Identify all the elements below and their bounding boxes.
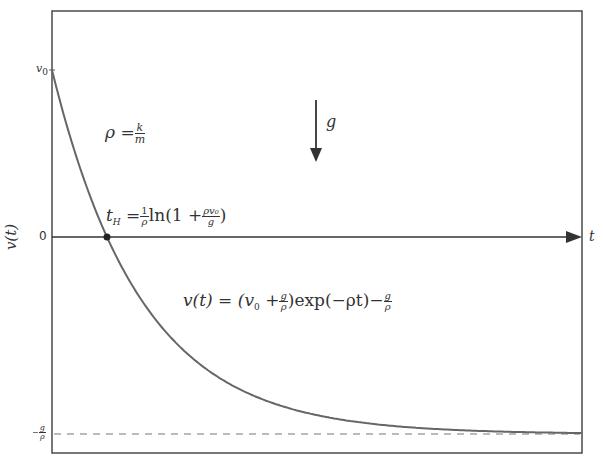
plot-frame [52,11,582,453]
t-h-formula: tH =1ρln(1 +ρv₀g) [106,205,226,227]
t-h-point [104,234,111,241]
time-axis-arrowhead-icon [566,231,582,243]
rho-definition: ρ =km [105,122,145,145]
y-tick-zero: 0 [39,229,47,243]
x-axis-label: t [589,228,595,244]
velocity-formula: v(t) = (v0 +gρ)exp(−ρt)−gρ [183,290,392,312]
y-tick-asymptote: −gρ [32,424,46,441]
gravity-arrow-down-icon [310,148,322,162]
gravity-label: g [326,112,336,131]
y-tick-v0: v0 [36,62,48,77]
y-axis-label: v(t) [2,224,20,250]
plot-canvas [0,0,603,472]
